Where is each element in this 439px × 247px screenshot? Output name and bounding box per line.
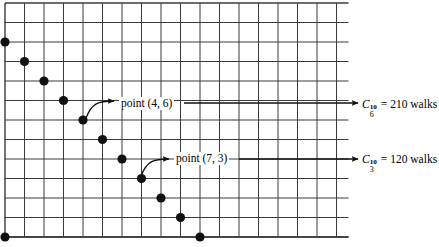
walk-count: 210 xyxy=(390,98,407,110)
lattice-point-dot xyxy=(0,232,9,241)
lattice-point-dot xyxy=(0,37,9,46)
equals-sign: = xyxy=(381,98,388,110)
lattice-grid-canvas xyxy=(0,0,439,247)
lattice-walk-figure: point (4, 6) point (7, 3) C106 = 210 wal… xyxy=(0,0,439,247)
lattice-point-dot xyxy=(195,232,204,241)
annotation-lead-lines xyxy=(184,103,358,159)
callout-curved-arrow xyxy=(141,159,169,176)
lattice-point-dot xyxy=(137,174,146,183)
lattice-point-dot xyxy=(20,57,29,66)
lattice-point-dot xyxy=(156,193,165,202)
binomial-subscript: 6 xyxy=(370,111,374,119)
lattice-point-dot xyxy=(98,135,107,144)
binomial-symbol: C xyxy=(362,153,370,165)
walk-unit: walks xyxy=(410,153,437,165)
lattice-point-dot xyxy=(117,154,126,163)
grid-lines xyxy=(5,3,349,237)
result-label-c-3-10: C103 = 120 walks xyxy=(362,153,437,166)
callout-label-point-7-3: point (7, 3) xyxy=(174,152,229,165)
result-label-c-6-10: C106 = 210 walks xyxy=(362,98,437,111)
callout-label-point-4-6: point (4, 6) xyxy=(119,97,174,110)
lattice-point-dot xyxy=(78,115,87,124)
callout-curved-arrow xyxy=(86,101,114,118)
binomial-subscript: 3 xyxy=(370,166,374,174)
walk-unit: walks xyxy=(410,98,437,110)
binomial-symbol: C xyxy=(362,98,370,110)
lattice-point-dot xyxy=(39,76,48,85)
lattice-point-dot xyxy=(176,213,185,222)
equals-sign: = xyxy=(381,153,388,165)
walk-count: 120 xyxy=(390,153,407,165)
lattice-point-dot xyxy=(59,96,68,105)
